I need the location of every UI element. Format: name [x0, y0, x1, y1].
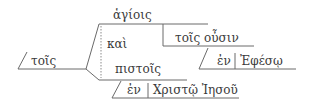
word-hagiois: ἁγίοις — [113, 8, 152, 22]
word-christ-jesus: Χριστῷ Ἰησοῦ — [153, 83, 238, 97]
word-ephesus: Ἐφέσῳ — [240, 54, 283, 68]
sentence-diagram: τοῖς ἁγίοις καὶ πιστοῖς τοῖς οὖσιν ἐν Ἐφ… — [0, 0, 309, 110]
word-en-2: ἐν — [127, 83, 141, 97]
word-tois-article: τοῖς — [31, 54, 57, 68]
word-kai-conjunction: καὶ — [107, 37, 128, 51]
word-en-1: ἐν — [217, 54, 231, 68]
word-tois-ousin: τοῖς οὖσιν — [175, 29, 239, 45]
word-pistois: πιστοῖς — [115, 62, 161, 76]
